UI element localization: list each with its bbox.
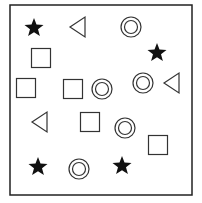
double-circle-icon <box>133 73 153 93</box>
triangle-icon <box>70 17 85 37</box>
triangle-icon <box>164 73 179 93</box>
square-icon <box>17 79 36 98</box>
shape-grid-figure <box>0 0 202 203</box>
square-icon <box>64 80 83 99</box>
star-icon <box>25 18 44 36</box>
triangle-icon <box>32 112 47 132</box>
star-icon <box>148 43 167 61</box>
square-icon <box>81 113 100 132</box>
star-icon <box>113 156 132 174</box>
shapes-group <box>17 17 180 179</box>
double-circle-icon <box>69 159 89 179</box>
square-icon <box>149 136 168 155</box>
square-icon <box>32 49 51 68</box>
star-icon <box>29 157 48 175</box>
double-circle-icon <box>92 79 112 99</box>
double-circle-icon <box>121 17 141 37</box>
double-circle-icon <box>115 118 135 138</box>
